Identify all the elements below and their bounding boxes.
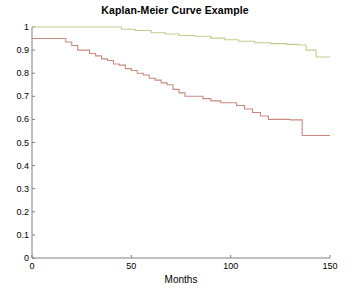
x-tick-label: 0 <box>29 262 34 271</box>
y-tick-label: 1 <box>3 23 29 32</box>
x-axis-label: Months <box>32 274 330 285</box>
y-tick-label: 0.2 <box>3 207 29 216</box>
x-tick-label: 150 <box>322 262 337 271</box>
survival-curves <box>32 27 330 136</box>
x-tick-label: 50 <box>126 262 136 271</box>
x-tick-label: 100 <box>223 262 238 271</box>
y-tick-label: 0.5 <box>3 138 29 147</box>
tick-marks <box>32 27 330 258</box>
y-tick-label: 0.9 <box>3 46 29 55</box>
plot-axes-and-curves <box>0 0 350 291</box>
axis-lines <box>32 27 330 258</box>
kaplan-meier-figure: Kaplan-Meier Curve Example 00.10.20.30.4… <box>0 0 350 291</box>
y-tick-label: 0.1 <box>3 230 29 239</box>
y-tick-label: 0.7 <box>3 92 29 101</box>
y-tick-label: 0.8 <box>3 69 29 78</box>
upper-survival-curve <box>32 27 330 57</box>
y-tick-label: 0.3 <box>3 184 29 193</box>
y-axis-tick-labels: 00.10.20.30.40.50.60.70.80.91 <box>0 0 29 291</box>
lower-survival-curve <box>32 39 330 136</box>
y-tick-label: 0.4 <box>3 161 29 170</box>
y-tick-label: 0.6 <box>3 115 29 124</box>
